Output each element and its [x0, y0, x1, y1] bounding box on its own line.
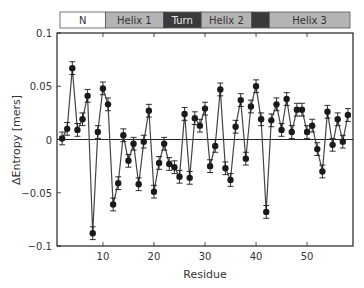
data-point: [192, 115, 198, 121]
data-point: [161, 141, 167, 147]
y-tick-label: −0.1: [28, 241, 52, 252]
data-point: [105, 101, 111, 107]
data-point: [202, 105, 208, 111]
data-point: [268, 117, 274, 123]
data-point: [84, 93, 90, 99]
data-point: [324, 109, 330, 115]
data-point: [227, 177, 233, 183]
structure-label: Helix 3: [292, 15, 327, 26]
data-point: [207, 163, 213, 169]
data-point: [125, 158, 131, 164]
y-tick-label: 0.05: [30, 81, 52, 92]
data-point: [100, 85, 106, 91]
data-point: [258, 116, 264, 122]
entropy-chart: NHelix 1TurnHelix 2Helix 3 1020304050−0.…: [0, 0, 364, 288]
structure-label: Helix 2: [209, 15, 244, 26]
data-point: [59, 135, 65, 141]
data-point: [115, 180, 121, 186]
data-point: [176, 174, 182, 180]
data-point: [146, 108, 152, 114]
y-tick-label: −0.05: [21, 188, 52, 199]
data-point: [79, 116, 85, 122]
data-point: [64, 126, 70, 132]
data-point: [283, 96, 289, 102]
data-point: [263, 209, 269, 215]
x-axis-label: Residue: [183, 268, 227, 281]
data-series: [59, 62, 351, 240]
data-point: [130, 141, 136, 147]
data-point: [69, 65, 75, 71]
secondary-structure-bar: NHelix 1TurnHelix 2Helix 3: [60, 12, 350, 28]
data-point: [253, 83, 259, 89]
data-point: [217, 86, 223, 92]
data-point: [181, 111, 187, 117]
structure-label: Helix 1: [117, 15, 152, 26]
structure-label: Turn: [171, 15, 193, 26]
data-point: [151, 188, 157, 194]
chart-figure: NHelix 1TurnHelix 2Helix 3 1020304050−0.…: [0, 0, 364, 288]
x-tick-label: 30: [199, 251, 212, 262]
data-point: [278, 127, 284, 133]
data-point: [156, 160, 162, 166]
data-point: [334, 116, 340, 122]
data-point: [309, 122, 315, 128]
data-point: [222, 165, 228, 171]
y-tick-label: 0: [46, 135, 52, 146]
data-point: [141, 138, 147, 144]
x-tick-label: 50: [301, 251, 314, 262]
data-point: [90, 230, 96, 236]
data-point: [110, 201, 116, 207]
data-point: [248, 103, 254, 109]
x-tick-label: 10: [97, 251, 110, 262]
y-axis-label: ΔEntropy [mers]: [10, 95, 23, 185]
data-point: [340, 138, 346, 144]
data-point: [329, 142, 335, 148]
y-tick-label: 0.1: [36, 28, 52, 39]
data-point: [314, 146, 320, 152]
data-point: [186, 175, 192, 181]
data-point: [232, 124, 238, 130]
data-point: [212, 143, 218, 149]
structure-segment: [252, 12, 270, 28]
data-point: [171, 164, 177, 170]
x-tick-label: 20: [148, 251, 161, 262]
data-point: [243, 155, 249, 161]
x-tick-label: 40: [250, 251, 263, 262]
data-point: [273, 101, 279, 107]
data-point: [120, 132, 126, 138]
data-point: [197, 122, 203, 128]
data-point: [345, 112, 351, 118]
data-point: [319, 168, 325, 174]
structure-label: N: [79, 15, 86, 26]
data-point: [135, 181, 141, 187]
data-point: [299, 106, 305, 112]
data-point: [95, 129, 101, 135]
data-point: [238, 97, 244, 103]
data-point: [74, 127, 80, 133]
series-line: [62, 68, 348, 233]
data-point: [289, 129, 295, 135]
